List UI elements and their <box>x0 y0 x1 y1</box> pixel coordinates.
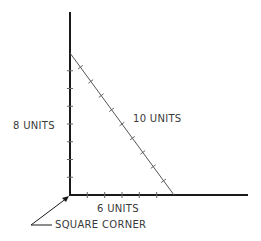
hypotenuse-ticks <box>78 65 166 182</box>
horizontal-side-label: 6 UNITS <box>97 204 139 214</box>
square-corner-label: SQUARE CORNER <box>55 220 146 230</box>
hypotenuse-label: 10 UNITS <box>133 114 182 124</box>
right-triangle-diagram: 8 UNITS 10 UNITS 6 UNITS SQUARE CORNER <box>0 0 261 241</box>
vertical-side-label: 8 UNITS <box>13 121 55 131</box>
